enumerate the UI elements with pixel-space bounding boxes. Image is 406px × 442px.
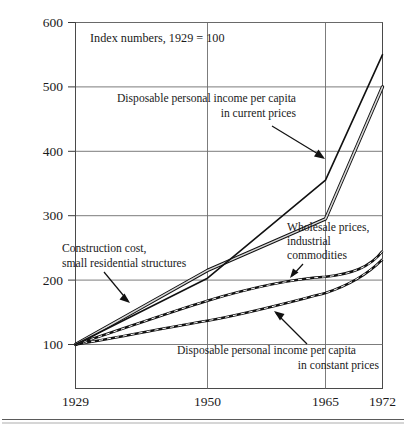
- series-constant-prices-stroke: [76, 259, 383, 344]
- plot-border: [76, 23, 383, 389]
- annotation-current-prices-line1: Disposable personal income per capita: [117, 92, 296, 105]
- annotation-wholesale-line3: commodities: [287, 249, 347, 262]
- annotation-current-prices-line2: in current prices: [221, 107, 297, 120]
- y-tick-label-100: 100: [43, 337, 64, 352]
- annotation-current-prices: Disposable personal income per capita in…: [117, 92, 325, 159]
- y-axis-ticks: [68, 23, 76, 345]
- plot-frame: [76, 23, 383, 389]
- y-tick-label-400: 400: [43, 144, 64, 159]
- y-gridlines: [76, 23, 383, 345]
- caption-divider: [2, 420, 404, 424]
- annotation-current-prices-leader: [272, 126, 323, 157]
- chart-figure: 600 500 400 300 200 100 1929 1950 1965 1…: [0, 0, 406, 442]
- y-tick-label-300: 300: [43, 208, 64, 223]
- x-tick-label-1929: 1929: [62, 394, 89, 409]
- y-tick-label-200: 200: [43, 273, 64, 288]
- x-tick-label-1965: 1965: [312, 394, 339, 409]
- chart-canvas: 600 500 400 300 200 100 1929 1950 1965 1…: [0, 0, 406, 442]
- annotation-wholesale-line2: industrial: [287, 235, 331, 248]
- annotation-constant-prices-line2: in constant prices: [298, 359, 380, 372]
- y-tick-label-600: 600: [43, 15, 64, 30]
- x-tick-label-1950: 1950: [194, 394, 221, 409]
- series-constant-prices: [76, 259, 383, 344]
- x-axis-labels: 1929 1950 1965 1972: [62, 394, 396, 409]
- annotation-construction-cost-line2: small residential structures: [62, 257, 187, 270]
- annotation-construction-cost-line1: Construction cost,: [62, 242, 146, 255]
- series-constant-prices-dash: [76, 259, 383, 344]
- annotation-constant-prices-arrowhead: [274, 311, 285, 321]
- y-axis-labels: 600 500 400 300 200 100: [43, 15, 64, 352]
- annotation-constant-prices-line1: Disposable personal income per capita: [177, 344, 356, 357]
- y-tick-label-500: 500: [43, 79, 64, 94]
- x-gridlines: [208, 23, 326, 389]
- annotation-construction-cost-arrowhead: [120, 294, 131, 304]
- index-note: Index numbers, 1929 = 100: [90, 31, 225, 45]
- x-tick-label-1972: 1972: [369, 394, 396, 409]
- annotation-wholesale-line1: Wholesale prices,: [287, 221, 370, 234]
